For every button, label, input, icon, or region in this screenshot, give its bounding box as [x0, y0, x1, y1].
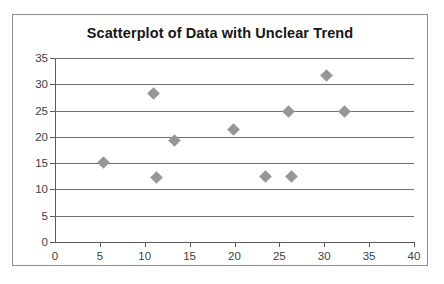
data-point — [320, 69, 333, 82]
y-axis-tick — [50, 163, 55, 164]
data-point — [147, 87, 160, 100]
x-axis-tick — [369, 242, 370, 247]
data-point — [97, 156, 110, 169]
y-gridline — [55, 216, 414, 217]
y-axis-line — [55, 58, 56, 242]
y-axis-label: 20 — [35, 131, 48, 143]
x-axis-label: 25 — [273, 250, 286, 262]
y-gridline — [55, 84, 414, 85]
x-axis-tick — [145, 242, 146, 247]
y-axis-label: 10 — [35, 183, 48, 195]
y-axis-label: 30 — [35, 78, 48, 90]
y-axis-label: 25 — [35, 105, 48, 117]
data-point — [150, 171, 163, 184]
x-axis-tick — [414, 242, 415, 247]
y-gridline — [55, 111, 414, 112]
x-axis-tick — [279, 242, 280, 247]
x-axis-tick — [235, 242, 236, 247]
y-axis-tick — [50, 189, 55, 190]
x-axis-label: 20 — [228, 250, 241, 262]
x-axis-tick — [190, 242, 191, 247]
data-point — [285, 170, 298, 183]
y-gridline — [55, 189, 414, 190]
x-axis-label: 5 — [97, 250, 103, 262]
x-axis-label: 30 — [318, 250, 331, 262]
x-axis-label: 10 — [138, 250, 151, 262]
y-gridline — [55, 58, 414, 59]
y-axis-label: 15 — [35, 157, 48, 169]
x-axis-label: 15 — [183, 250, 196, 262]
data-point — [168, 134, 181, 147]
data-point — [282, 105, 295, 118]
y-axis-tick — [50, 137, 55, 138]
y-axis-tick — [50, 111, 55, 112]
x-axis-label: 40 — [408, 250, 421, 262]
x-axis-label: 35 — [363, 250, 376, 262]
y-axis-tick — [50, 242, 55, 243]
data-point — [339, 105, 352, 118]
x-axis-tick — [100, 242, 101, 247]
y-axis-label: 35 — [35, 52, 48, 64]
y-axis-tick — [50, 216, 55, 217]
data-point — [227, 123, 240, 136]
y-axis-tick — [50, 84, 55, 85]
chart-title: Scatterplot of Data with Unclear Trend — [13, 25, 427, 41]
x-axis-tick — [324, 242, 325, 247]
chart-frame: Scatterplot of Data with Unclear Trend 0… — [12, 14, 428, 266]
y-axis-label: 5 — [42, 210, 48, 222]
y-gridline — [55, 137, 414, 138]
y-axis-label: 0 — [42, 236, 48, 248]
y-axis-tick — [50, 58, 55, 59]
plot-area: 051015202530350510152025303540 — [55, 58, 414, 242]
data-point — [259, 170, 272, 183]
x-axis-label: 0 — [52, 250, 58, 262]
